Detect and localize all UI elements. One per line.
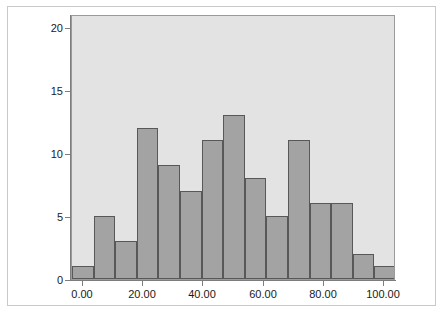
histogram-bar: [331, 203, 353, 279]
y-axis-tick: [65, 28, 71, 29]
x-axis-tick: [383, 281, 384, 286]
x-axis-tick: [142, 281, 143, 286]
histogram-bar: [137, 128, 159, 279]
x-axis-tick-label: 40.00: [172, 288, 232, 300]
histogram-bar: [202, 140, 224, 279]
plot-panel: [71, 15, 395, 280]
histogram-bar: [266, 216, 288, 279]
y-axis-tick: [65, 154, 71, 155]
histogram-bar: [310, 203, 332, 279]
histogram-bar: [223, 115, 245, 279]
x-axis-line: [71, 280, 396, 281]
x-axis-tick-label: 20.00: [112, 288, 172, 300]
y-axis-tick: [65, 91, 71, 92]
y-axis-tick-label: 20: [40, 23, 63, 34]
x-axis-tick-label: 60.00: [233, 288, 293, 300]
y-axis-tick-label: 10: [40, 149, 63, 160]
x-axis-tick: [82, 281, 83, 286]
histogram-bar: [180, 191, 202, 279]
histogram-figure: 05101520 0.0020.0040.0060.0080.00100.00: [0, 0, 443, 318]
x-axis-tick-label: 100.00: [353, 288, 413, 300]
histogram-bar: [94, 216, 116, 279]
histogram-bar: [353, 254, 375, 279]
histogram-bar: [158, 165, 180, 279]
histogram-bar: [374, 266, 395, 279]
histogram-bar: [245, 178, 267, 279]
y-axis-tick-label: 15: [40, 86, 63, 97]
y-axis-tick-label: 0: [40, 275, 63, 286]
y-axis-tick: [65, 280, 71, 281]
x-axis-tick: [202, 281, 203, 286]
x-axis-tick: [323, 281, 324, 286]
y-axis-tick: [65, 217, 71, 218]
histogram-bar: [72, 266, 94, 279]
histogram-bars: [72, 16, 394, 279]
histogram-bar: [115, 241, 137, 279]
y-axis-tick-label: 5: [40, 212, 63, 223]
y-axis-line: [70, 15, 71, 281]
x-axis-tick-label: 80.00: [293, 288, 353, 300]
histogram-bar: [288, 140, 310, 279]
x-axis-tick-label: 0.00: [52, 288, 112, 300]
x-axis-tick: [263, 281, 264, 286]
